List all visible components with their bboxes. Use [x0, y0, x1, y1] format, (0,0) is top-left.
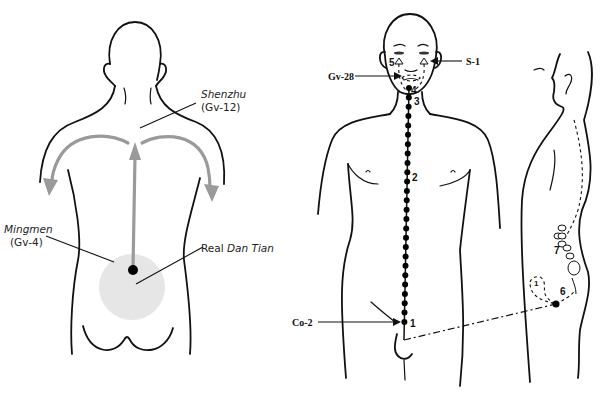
mouth: [404, 79, 418, 81]
acupoint-dot: [403, 244, 409, 250]
acupoint-dot: [403, 263, 409, 269]
acupoint-dot: [403, 254, 409, 260]
co2-label: Co-2: [292, 317, 313, 328]
flow-arrow-left: [52, 136, 128, 182]
back-view-figure: Shenzhu (Gv-12) Mingmen (Gv-4) Real Dan …: [4, 22, 274, 354]
flow-arrowhead-left: [43, 178, 58, 196]
point-label-6: 6: [560, 286, 566, 297]
front-neck-right: [422, 92, 430, 114]
left-pec: [348, 164, 378, 184]
acupoint-dot: [404, 179, 410, 185]
diagram-stage: Shenzhu (Gv-12) Mingmen (Gv-4) Real Dan …: [0, 0, 607, 398]
side-view-figure: 7 6 1: [521, 52, 591, 382]
left-torso: [68, 170, 79, 354]
acupoint-dot: [402, 291, 408, 297]
mingmen-code-label: (Gv-4): [10, 236, 43, 248]
leg-divide: [404, 360, 405, 380]
side-back-outline: [578, 52, 592, 378]
acupoint-dot: [404, 207, 410, 213]
right-torso: [184, 178, 200, 354]
acupoint-dot: [401, 319, 407, 325]
side-point-label-1: 1: [534, 279, 539, 288]
point-label-7: 7: [554, 245, 560, 256]
acupoint-dot: [402, 282, 408, 288]
mingmen-point: [128, 265, 138, 275]
nose: [405, 70, 417, 72]
side-ear: [565, 74, 572, 94]
gv28-arrowhead: [394, 72, 402, 80]
gv28-label: Gv-28: [328, 71, 354, 82]
left-nipple: [366, 171, 370, 173]
vertebrae: [554, 225, 580, 294]
right-nipple: [451, 171, 455, 173]
s1-label: S-1: [466, 56, 480, 67]
dantian-label: Real Dan Tian: [201, 242, 274, 254]
left-eyebrow: [394, 45, 405, 47]
left-ear: [104, 64, 115, 86]
acupoint-dot: [402, 300, 408, 306]
head-outline: [109, 22, 161, 80]
acupoint-dot: [405, 132, 411, 138]
front-to-side-connector: [404, 304, 556, 340]
acupoint-dot: [403, 235, 409, 241]
front-neck-left: [390, 92, 398, 114]
point-label-5: 5: [389, 57, 395, 68]
meridian-diagram: Shenzhu (Gv-12) Mingmen (Gv-4) Real Dan …: [0, 0, 607, 398]
acupoint-dot: [404, 188, 410, 194]
acupoint-dot: [405, 160, 411, 166]
right-eye: [419, 52, 429, 55]
point-label-3: 3: [414, 96, 420, 107]
side-point-6: [553, 301, 560, 308]
side-arm: [550, 150, 555, 190]
mingmen-label: Mingmen: [4, 223, 53, 235]
flow-arrowhead-up: [129, 142, 141, 160]
acupoint-dot: [404, 197, 410, 203]
acupoint-dot: [405, 141, 411, 147]
side-eye: [534, 69, 544, 71]
front-left-shoulder: [318, 114, 390, 214]
flow-arrow-vertical: [133, 156, 135, 270]
front-right-torso: [460, 170, 470, 386]
point-label-1: 1: [410, 318, 416, 329]
acupoint-dot: [405, 113, 411, 119]
co2-arrowhead: [393, 318, 401, 326]
neck-left: [124, 88, 126, 104]
right-eyebrow: [418, 45, 428, 47]
flow-arrowhead-right: [204, 184, 219, 202]
acupoint-dot: [402, 272, 408, 278]
point-label-2: 2: [412, 172, 418, 183]
right-eye-point-triangle: [420, 58, 428, 64]
groin-line: [371, 302, 395, 322]
buttocks-outline: [83, 326, 173, 350]
front-view-figure: Gv-28 S-1 Co-2 5 4 3 2 1: [292, 14, 500, 386]
left-shoulder: [40, 86, 115, 182]
side-face-outline: [521, 54, 563, 382]
acupoint-dot: [405, 151, 411, 157]
acupoint-dot: [403, 216, 409, 222]
shenzhu-code-label: (Gv-12): [201, 101, 240, 113]
dantian-prefix: Real: [201, 242, 227, 254]
shenzhu-label: Shenzhu: [201, 88, 247, 100]
left-eye: [394, 52, 404, 55]
acupoint-dot: [406, 104, 412, 110]
acupoint-dot: [402, 310, 408, 316]
front-left-torso: [342, 164, 353, 378]
acupoint-dot: [404, 169, 410, 175]
acupoint-dot: [405, 122, 411, 128]
left-eye-point-triangle: [395, 58, 403, 64]
dantian-name: Dan Tian: [227, 242, 274, 254]
point-label-4: 4: [411, 85, 417, 96]
acupoint-dot: [403, 225, 409, 231]
front-head-outline: [384, 14, 437, 94]
neck-right: [150, 88, 151, 104]
